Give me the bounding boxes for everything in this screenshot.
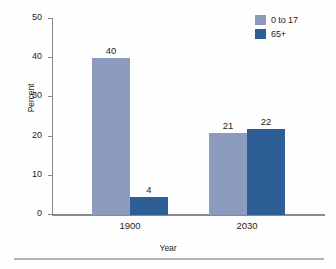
y-tick-40: 40: [48, 57, 52, 58]
x-tick-label-2030: 2030: [236, 220, 257, 231]
bar-2030-0-to-17: 21: [209, 133, 247, 215]
y-tick-label-20: 20: [32, 130, 42, 141]
y-axis-line: [52, 18, 53, 215]
y-tick-30: 30: [48, 96, 52, 97]
y-tick-0: 0: [48, 214, 52, 215]
y-tick-label-10: 10: [32, 169, 42, 180]
bar-chart-figure: 0 to 17 65+ Percent 0 10 20 30 40 50: [0, 0, 336, 269]
bar-value-1900-65-plus: 4: [146, 184, 151, 195]
x-tick-label-1900: 1900: [119, 220, 140, 231]
bar-1900-65-plus: 4: [130, 197, 168, 215]
y-tick-label-50: 50: [32, 12, 42, 23]
x-axis-title: Year: [0, 243, 336, 253]
y-tick-label-30: 30: [32, 90, 42, 101]
bar-value-2030-65-plus: 22: [261, 116, 272, 127]
y-tick-label-0: 0: [37, 208, 42, 219]
y-tick-label-40: 40: [32, 51, 42, 62]
bar-value-1900-0-to-17: 40: [106, 45, 117, 56]
bottom-divider: [14, 258, 324, 260]
y-tick-10: 10: [48, 175, 52, 176]
bar-2030-65-plus: 22: [247, 129, 285, 215]
plot-area: 0 10 20 30 40 50 40 4 21 22 1900: [52, 18, 325, 215]
y-tick-50: 50: [48, 18, 52, 19]
bar-value-2030-0-to-17: 21: [223, 120, 234, 131]
bar-1900-0-to-17: 40: [92, 58, 130, 215]
y-tick-20: 20: [48, 136, 52, 137]
